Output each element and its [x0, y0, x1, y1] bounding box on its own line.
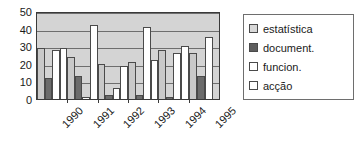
bar: [166, 97, 174, 99]
legend-item: document.: [249, 38, 349, 57]
y-tick-label: 10: [4, 77, 32, 88]
bar: [67, 57, 75, 99]
x-tick-label: 1995: [213, 105, 238, 130]
bar: [82, 97, 90, 99]
y-tick-label: 40: [4, 25, 32, 36]
bar-group: [98, 13, 128, 99]
legend-item: estatística: [249, 19, 349, 38]
bar: [151, 60, 159, 99]
bar: [158, 50, 166, 99]
x-tick-label: 1994: [183, 105, 208, 130]
bar: [45, 78, 53, 99]
bar: [189, 53, 197, 99]
x-tick-label: 1993: [152, 105, 177, 130]
bar-group: [67, 13, 97, 99]
y-tick-label: 50: [4, 7, 32, 18]
y-tick-label: 30: [4, 42, 32, 53]
bar: [120, 66, 128, 99]
bar: [205, 37, 213, 99]
bar-group: [128, 13, 158, 99]
bar: [113, 88, 121, 99]
legend-label: funcion.: [263, 61, 302, 73]
x-axis: 199019911992199319941995: [36, 101, 220, 145]
bar: [98, 64, 106, 99]
bar-group: [37, 13, 67, 99]
legend-label: estatística: [263, 23, 313, 35]
x-tick-label: 1991: [91, 105, 116, 130]
y-tick-label: 0: [4, 95, 32, 106]
bar: [75, 76, 83, 99]
bar: [197, 76, 205, 99]
bar: [128, 62, 136, 99]
bars-layer: [37, 13, 219, 99]
legend-item: acção: [249, 76, 349, 95]
legend-label: acção: [263, 80, 292, 92]
legend-swatch-icon: [249, 43, 258, 52]
legend-item: funcion.: [249, 57, 349, 76]
bar-group: [189, 13, 219, 99]
bar: [136, 95, 144, 99]
legend-swatch-icon: [249, 62, 258, 71]
legend-swatch-icon: [249, 81, 258, 90]
x-tick-label: 1990: [60, 105, 85, 130]
bar: [181, 46, 189, 99]
bar-group: [158, 13, 188, 99]
bar: [90, 25, 98, 99]
bar: [60, 48, 68, 99]
bar: [143, 27, 151, 99]
plot-area: [36, 12, 220, 100]
legend-label: document.: [263, 42, 314, 54]
legend-swatch-icon: [249, 24, 258, 33]
bar-chart: 01020304050 199019911992199319941995 est…: [0, 0, 360, 146]
bar: [52, 50, 60, 99]
y-axis: 01020304050: [4, 12, 32, 100]
bar: [105, 95, 113, 99]
bar: [37, 48, 45, 99]
bar: [173, 53, 181, 99]
chart-legend: estatísticadocument.funcion.acção: [243, 14, 354, 100]
x-tick-label: 1992: [121, 105, 146, 130]
y-tick-label: 20: [4, 60, 32, 71]
